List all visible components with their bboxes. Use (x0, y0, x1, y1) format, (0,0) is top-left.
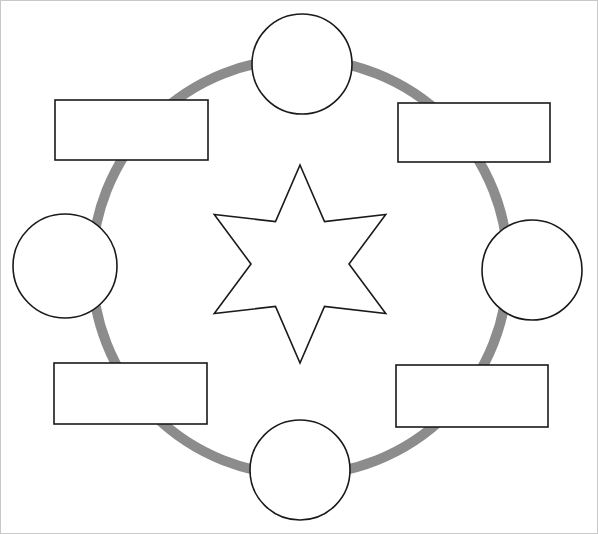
circle-node-top-shape[interactable] (252, 14, 352, 114)
rect-node-bottom-right-shape[interactable] (396, 365, 548, 427)
circle-node-bottom-shape[interactable] (250, 420, 350, 520)
rect-node-top-right[interactable] (398, 103, 550, 162)
circle-node-left-shape[interactable] (13, 214, 117, 318)
rect-node-bottom-right[interactable] (396, 365, 548, 427)
rect-node-bottom-left[interactable] (54, 363, 207, 424)
circle-node-left[interactable] (13, 214, 117, 318)
circle-node-right[interactable] (482, 220, 582, 320)
circle-node-right-shape[interactable] (482, 220, 582, 320)
rect-node-top-right-shape[interactable] (398, 103, 550, 162)
cycle-diagram (0, 0, 598, 534)
circle-node-top[interactable] (252, 14, 352, 114)
diagram-canvas (0, 0, 598, 534)
circle-node-bottom[interactable] (250, 420, 350, 520)
rect-node-bottom-left-shape[interactable] (54, 363, 207, 424)
rect-node-top-left-shape[interactable] (55, 100, 208, 160)
rect-node-top-left[interactable] (55, 100, 208, 160)
